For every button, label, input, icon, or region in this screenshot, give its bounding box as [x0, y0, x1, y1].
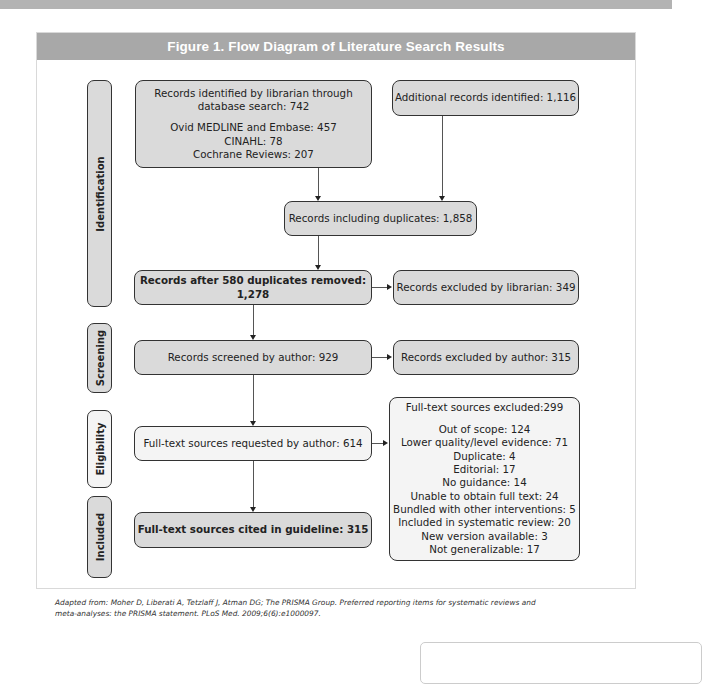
figure-caption: Adapted from: Moher D, Liberati A, Tetzl… — [55, 598, 615, 619]
figure-title: Figure 1. Flow Diagram of Literature Sea… — [37, 33, 635, 60]
exclusion-reason: Lower quality/level evidence: 71 — [393, 436, 576, 449]
including-duplicates-text: Records including duplicates: 1,858 — [289, 212, 473, 225]
arrow-right-icon — [387, 354, 392, 360]
phase-screening: Screening — [87, 323, 112, 393]
phase-identification-label: Identification — [94, 156, 105, 231]
connector — [253, 305, 254, 335]
phase-included: Included — [87, 496, 112, 578]
exclusion-reason: Not generalizable: 17 — [393, 543, 576, 556]
arrow-right-icon — [387, 284, 392, 290]
arrow-down-icon — [439, 196, 445, 201]
exclusion-reason: New version available: 3 — [393, 530, 576, 543]
excluded-librarian-text: Records excluded by librarian: 349 — [396, 281, 575, 294]
exclusion-reason: Editorial: 17 — [393, 463, 576, 476]
fulltext-requested-text: Full-text sources requested by author: 6… — [143, 437, 362, 450]
exclusion-reason: Unable to obtain full text: 24 — [393, 490, 576, 503]
exclusion-reason: Duplicate: 4 — [393, 450, 576, 463]
connector — [253, 461, 254, 507]
arrow-down-icon — [315, 265, 321, 270]
connector — [318, 236, 319, 265]
exclusion-reason: Out of scope: 124 — [393, 423, 576, 436]
librarian-search-sub3: Cochrane Reviews: 207 — [154, 148, 352, 161]
librarian-search-sub1: Ovid MEDLINE and Embase: 457 — [154, 121, 352, 134]
arrow-down-icon — [250, 507, 256, 512]
fulltext-cited-text: Full-text sources cited in guideline: 31… — [138, 523, 369, 536]
connector — [442, 116, 443, 196]
top-bar — [0, 0, 672, 9]
excluded-author-text: Records excluded by author: 315 — [401, 351, 571, 364]
box-fulltext-cited: Full-text sources cited in guideline: 31… — [134, 512, 372, 548]
additional-records-text: Additional records identified: 1,116 — [395, 91, 576, 104]
box-including-duplicates: Records including duplicates: 1,858 — [284, 201, 477, 236]
connector — [253, 375, 254, 421]
fulltext-excluded-title: Full-text sources excluded:299 — [393, 401, 576, 414]
caption-line-2: meta-analyses: the PRISMA statement. PLo… — [55, 609, 615, 620]
phase-eligibility: Eligibility — [87, 410, 112, 488]
box-screened-author: Records screened by author: 929 — [134, 340, 372, 375]
screened-author-text: Records screened by author: 929 — [168, 351, 339, 364]
arrow-down-icon — [250, 335, 256, 340]
phase-screening-label: Screening — [94, 330, 105, 386]
connector — [318, 168, 319, 196]
box-after-duplicates: Records after 580 duplicates removed: 1,… — [134, 270, 372, 305]
after-duplicates-text: Records after 580 duplicates removed: 1,… — [135, 274, 371, 301]
exclusion-reason: No guidance: 14 — [393, 476, 576, 489]
exclusion-reason: Included in systematic review: 20 — [393, 516, 576, 529]
connector — [372, 357, 388, 358]
arrow-down-icon — [250, 421, 256, 426]
bottom-panel — [420, 642, 702, 684]
phase-eligibility-label: Eligibility — [94, 422, 105, 475]
librarian-search-sub2: CINAHL: 78 — [154, 135, 352, 148]
box-additional-records: Additional records identified: 1,116 — [392, 80, 579, 116]
exclusion-reason: Bundled with other interventions: 5 — [393, 503, 576, 516]
caption-line-1: Adapted from: Moher D, Liberati A, Tetzl… — [55, 598, 615, 609]
connector — [372, 287, 388, 288]
phase-included-label: Included — [94, 513, 105, 561]
librarian-search-line1: Records identified by librarian through — [154, 87, 352, 100]
phase-identification: Identification — [87, 80, 112, 307]
box-fulltext-requested: Full-text sources requested by author: 6… — [134, 426, 372, 461]
arrow-down-icon — [315, 196, 321, 201]
box-excluded-author: Records excluded by author: 315 — [393, 340, 579, 375]
box-fulltext-excluded: Full-text sources excluded:299 Out of sc… — [389, 397, 580, 561]
librarian-search-line2: database search: 742 — [154, 100, 352, 113]
arrow-right-icon — [383, 440, 388, 446]
box-excluded-librarian: Records excluded by librarian: 349 — [393, 270, 579, 305]
box-librarian-search: Records identified by librarian through … — [135, 80, 372, 168]
